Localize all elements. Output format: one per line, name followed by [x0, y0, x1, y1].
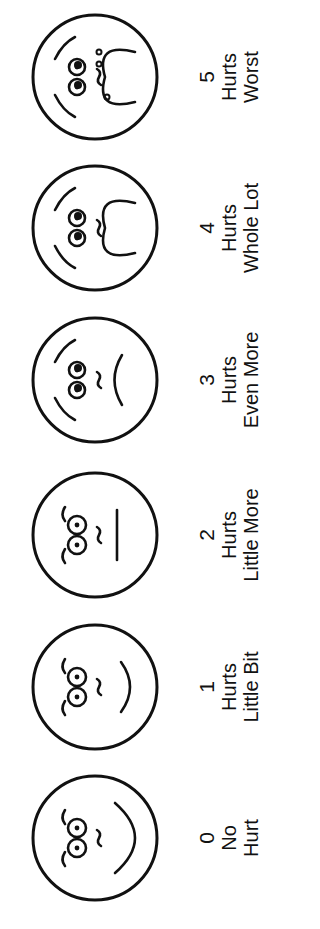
tear-icon: [97, 50, 102, 55]
nose: [97, 372, 101, 388]
tear-icon: [97, 62, 102, 67]
label-line-1: Hurts: [218, 12, 240, 142]
face-2: [33, 473, 157, 597]
label-line-2: Little More: [240, 470, 262, 600]
face-outline: [33, 166, 157, 290]
tear-icon: [105, 95, 110, 100]
nose: [97, 679, 101, 695]
face-1: [33, 625, 157, 749]
eyebrow: [63, 659, 66, 673]
nose: [97, 220, 101, 236]
pupil: [74, 81, 82, 89]
mouth: [103, 50, 135, 104]
eyebrow: [63, 507, 66, 521]
pupil: [75, 846, 80, 851]
face-label-4: 4HurtsWhole Lot: [196, 163, 268, 293]
mouth: [115, 803, 135, 873]
pupil: [74, 212, 82, 220]
mouth: [115, 355, 123, 405]
pupil: [75, 675, 80, 680]
mouth: [103, 201, 135, 255]
nose: [97, 527, 101, 543]
face-5: [33, 15, 157, 139]
label-line-2: Even More: [240, 315, 262, 445]
pupil: [75, 523, 80, 528]
label-line-2: Worst: [240, 12, 262, 142]
face-outline: [33, 776, 157, 900]
face-label-3: 3HurtsEven More: [196, 315, 268, 445]
eyebrow: [55, 246, 75, 268]
label-line-1: Hurts: [218, 163, 240, 293]
face-label-2: 2HurtsLittle More: [196, 470, 268, 600]
rating-number: 0: [196, 773, 218, 903]
label-line-1: Hurts: [218, 622, 240, 752]
pupil: [75, 695, 80, 700]
label-line-2: Little Bit: [240, 622, 262, 752]
rating-number: 1: [196, 622, 218, 752]
face-label-5: 5HurtsWorst: [196, 12, 268, 142]
label-line-2: Whole Lot: [240, 163, 262, 293]
pupil: [75, 543, 80, 548]
rating-number: 2: [196, 470, 218, 600]
label-line-1: No: [218, 773, 240, 903]
label-line-1: Hurts: [218, 315, 240, 445]
face-label-0: 0NoHurt: [196, 773, 268, 903]
pupil: [74, 364, 82, 372]
eyebrow: [63, 701, 66, 715]
pupil: [75, 826, 80, 831]
label-line-2: Hurt: [240, 773, 262, 903]
eyebrow: [55, 398, 75, 420]
face-outline: [33, 318, 157, 442]
face-label-1: 1HurtsLittle Bit: [196, 622, 268, 752]
face-0: [33, 776, 157, 900]
eyebrow: [55, 37, 75, 59]
nose: [97, 830, 101, 846]
face-outline: [33, 15, 157, 139]
eyebrow: [55, 188, 75, 210]
eyebrow: [55, 340, 75, 362]
nose: [97, 69, 101, 85]
eyebrow: [55, 95, 75, 117]
eyebrow: [63, 549, 66, 563]
face-3: [33, 318, 157, 442]
eyebrow: [63, 810, 66, 824]
pupil: [74, 61, 82, 69]
label-line-1: Hurts: [218, 470, 240, 600]
face-4: [33, 166, 157, 290]
rating-number: 5: [196, 12, 218, 142]
pupil: [74, 232, 82, 240]
rating-number: 3: [196, 315, 218, 445]
face-outline: [33, 625, 157, 749]
rating-number: 4: [196, 163, 218, 293]
mouth: [121, 662, 130, 712]
pupil: [74, 384, 82, 392]
eyebrow: [63, 852, 66, 866]
face-outline: [33, 473, 157, 597]
